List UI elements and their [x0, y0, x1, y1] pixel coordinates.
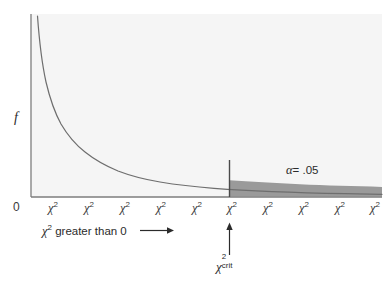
x-axis-tick-label-8: χ2 [299, 201, 309, 214]
crit-subscript: crit [222, 262, 233, 270]
chi-exponent: 2 [126, 200, 130, 209]
axis-direction-note: χ2 greater than 0 [42, 224, 127, 237]
x-axis-tick-label-5: χ2 [192, 201, 202, 214]
x-axis-tick-label-4: χ2 [156, 201, 166, 214]
y-axis-label: f [14, 111, 18, 125]
chi-exponent: 2 [162, 200, 166, 209]
chi-square-distribution-figure: f 0 χ2 χ2 χ2 χ2 χ2 χ2 χ2 χ2 χ2 χ2 α= .05… [0, 0, 392, 283]
x-axis-tick-label-3: χ2 [120, 201, 130, 214]
chi-exponent: 2 [376, 200, 380, 209]
axis-direction-text: greater than 0 [55, 225, 127, 237]
chi-exponent: 2 [90, 200, 94, 209]
crit-script-stack: 2crit [222, 259, 238, 271]
x-axis-tick-label-origin: 0 [13, 201, 20, 213]
alpha-value: = .05 [293, 164, 319, 176]
chi-exponent: 2 [48, 223, 52, 232]
chi-exponent: 2 [54, 200, 58, 209]
x-axis-tick-label-7: χ2 [263, 201, 273, 214]
plot-background [31, 14, 382, 197]
x-axis-tick-label-1: χ2 [48, 201, 58, 214]
critical-value-arrow-icon [226, 223, 232, 256]
chi-exponent: 2 [269, 200, 273, 209]
x-axis-tick-label-6: χ2 [227, 201, 237, 214]
critical-value-label: χ2crit [216, 259, 238, 274]
x-axis-tick-label-2: χ2 [84, 201, 94, 214]
x-axis-tick-label-9: χ2 [335, 201, 345, 214]
chi-exponent: 2 [305, 200, 309, 209]
chi-exponent: 2 [341, 200, 345, 209]
chi-exponent: 2 [198, 200, 202, 209]
direction-arrow-icon [140, 227, 174, 233]
alpha-annotation: α= .05 [286, 164, 318, 177]
x-axis-tick-label-10: χ2 [370, 201, 380, 214]
chart-canvas [0, 0, 392, 283]
chi-exponent: 2 [233, 200, 237, 209]
chi-exponent: 2 [222, 253, 226, 261]
